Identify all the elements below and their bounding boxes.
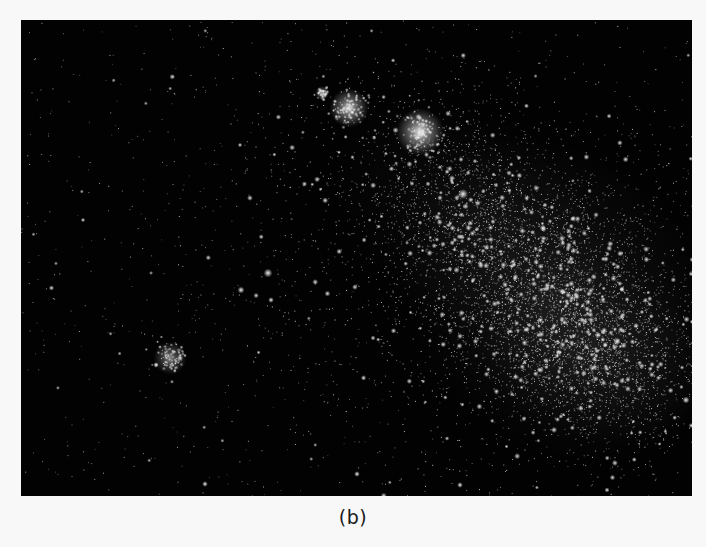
figure-caption: (b) (0, 506, 706, 528)
star-field-canvas (21, 20, 692, 496)
figure-page: (b) (0, 0, 706, 547)
star-field-photograph (21, 20, 692, 496)
